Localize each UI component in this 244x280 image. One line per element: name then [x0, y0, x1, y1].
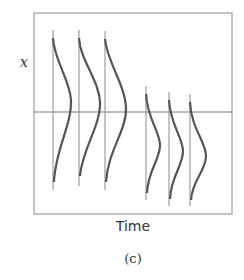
- y-axis-label: x: [20, 54, 28, 70]
- density-curve: [79, 38, 100, 176]
- distribution-1: [53, 30, 71, 190]
- distribution-2: [79, 30, 100, 186]
- distribution-3: [105, 31, 126, 190]
- density-curve: [105, 39, 126, 182]
- distribution-4: [146, 86, 160, 200]
- distribution-shift-diagram: [0, 0, 244, 280]
- density-curve: [190, 102, 206, 200]
- x-axis-label: Time: [0, 218, 244, 234]
- density-curve: [53, 38, 71, 182]
- plot-frame: [34, 13, 232, 214]
- density-curve: [146, 94, 160, 193]
- density-curve: [169, 100, 183, 199]
- distribution-5: [169, 92, 183, 206]
- figure-caption: (c): [0, 251, 244, 266]
- distribution-6: [190, 94, 206, 206]
